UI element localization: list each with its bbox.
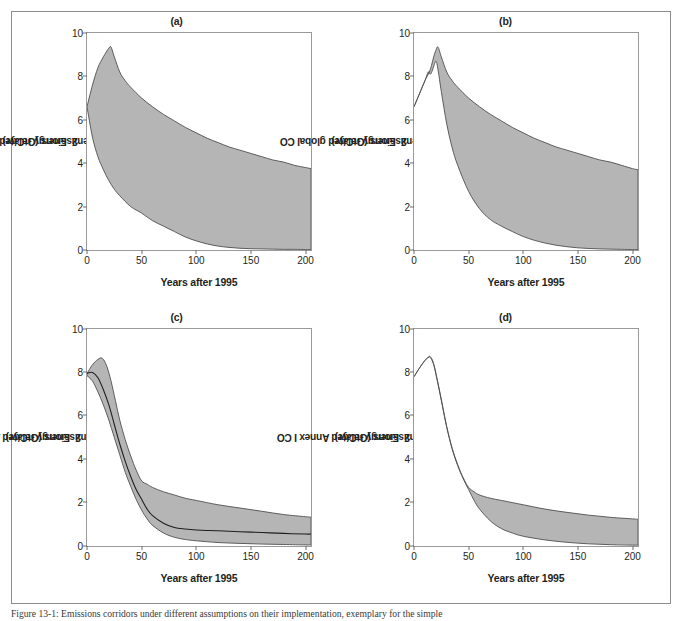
panel-c-xtick-0: 0 (84, 551, 90, 562)
panel-b: (b) Energy related global CO2 emissions … (341, 12, 670, 308)
panel-c-xtickmark-100 (196, 546, 197, 550)
panel-a-plot-svg (87, 33, 311, 250)
panel-d-ytickmark-8 (410, 371, 414, 372)
panel-d-plot-svg (414, 329, 638, 546)
panel-c-ytickmark-2 (83, 502, 87, 503)
panel-b-xtick-150: 150 (570, 255, 587, 266)
panel-c-x-axis-label: Years after 1995 (86, 572, 312, 584)
panel-d: (d) Energy related Annex I CO2 emissions… (341, 308, 670, 604)
panel-b-ytickmark-8 (410, 76, 414, 77)
panel-b-xtickmark-0 (414, 250, 415, 254)
panel-a: (a) Energy related global CO2 emissions … (12, 12, 341, 308)
panel-a-y-axis-label-text: Energy related global CO2 emissions (GtC… (4, 84, 37, 200)
panel-a-ytickmark-8 (83, 76, 87, 77)
panel-b-plot-svg (414, 33, 638, 250)
panel-c-ytickmark-4 (83, 458, 87, 459)
panel-a-ytickmark-6 (83, 119, 87, 120)
panel-d-xtick-50: 50 (463, 551, 474, 562)
panel-b-xtickmark-150 (577, 250, 578, 254)
panel-b-ytickmark-4 (410, 163, 414, 164)
panel-d-ytickmark-6 (410, 415, 414, 416)
panel-b-y-axis-label: Energy related global CO2 emissions (GtC… (339, 32, 359, 251)
panel-d-xtickmark-0 (414, 546, 415, 550)
panel-d-xtick-150: 150 (570, 551, 587, 562)
panel-b-x-axis-label: Years after 1995 (413, 276, 639, 288)
panel-b-ytickmark-6 (410, 119, 414, 120)
panel-grid: (a) Energy related global CO2 emissions … (12, 12, 670, 603)
panel-c-title: (c) (12, 311, 341, 323)
panel-c-y-axis-label-text: Energy related Annex I CO2 emissions (Gt… (4, 376, 37, 498)
panel-d-plot-area: 0246810050100150200 (413, 328, 639, 547)
panel-c-ytick-10: 10 (72, 323, 83, 334)
panel-c-xtickmark-0 (87, 546, 88, 550)
panel-d-ytickmark-2 (410, 502, 414, 503)
panel-b-xtickmark-50 (468, 250, 469, 254)
panel-b-ytickmark-10 (410, 33, 414, 34)
panel-c-xtickmark-50 (141, 546, 142, 550)
panel-a-xtickmark-0 (87, 250, 88, 254)
panel-a-xtickmark-200 (305, 250, 306, 254)
panel-b-title: (b) (341, 15, 670, 27)
panel-c-xtickmark-150 (250, 546, 251, 550)
panel-d-y-axis-label: Energy related Annex I CO2 emissions (Gt… (339, 328, 359, 547)
panel-a-ytickmark-10 (83, 33, 87, 34)
panel-b-xtick-0: 0 (411, 255, 417, 266)
panel-a-y-axis-label: Energy related global CO2 emissions (GtC… (10, 32, 30, 251)
panel-d-xtick-100: 100 (515, 551, 532, 562)
panel-a-ytickmark-4 (83, 163, 87, 164)
panel-a-xtick-100: 100 (188, 255, 205, 266)
panel-d-xtickmark-150 (577, 546, 578, 550)
panel-b-xtickmark-200 (632, 250, 633, 254)
panel-a-ytick-10: 10 (72, 28, 83, 39)
panel-c-xtick-50: 50 (136, 551, 147, 562)
panel-b-xtick-100: 100 (515, 255, 532, 266)
panel-b-ytick-10: 10 (399, 28, 410, 39)
panel-a-ytickmark-2 (83, 206, 87, 207)
panel-c-ytickmark-10 (83, 328, 87, 329)
panel-c: (c) Energy related Annex I CO2 emissions… (12, 308, 341, 604)
panel-c-xtick-150: 150 (243, 551, 260, 562)
panel-a-xtick-0: 0 (84, 255, 90, 266)
panel-a-plot-area: 0246810050100150200 (86, 32, 312, 251)
panel-a-xtick-150: 150 (243, 255, 260, 266)
panel-a-xtickmark-100 (196, 250, 197, 254)
panel-c-xtick-100: 100 (188, 551, 205, 562)
panel-d-y-axis-label-text: Energy related Annex I CO2 emissions (Gt… (333, 376, 366, 498)
panel-d-x-axis-label: Years after 1995 (413, 572, 639, 584)
panel-d-xtick-0: 0 (411, 551, 417, 562)
panel-a-xtickmark-50 (141, 250, 142, 254)
panel-c-y-axis-label: Energy related Annex I CO2 emissions (Gt… (10, 328, 30, 547)
panel-b-plot-area: 0246810050100150200 (413, 32, 639, 251)
panel-a-x-axis-label: Years after 1995 (86, 276, 312, 288)
panel-a-title: (a) (12, 15, 341, 27)
panel-c-xtick-200: 200 (297, 551, 314, 562)
panel-a-xtick-200: 200 (297, 255, 314, 266)
panel-b-ytickmark-2 (410, 206, 414, 207)
panel-b-xtick-50: 50 (463, 255, 474, 266)
panel-a-xtickmark-150 (250, 250, 251, 254)
figure-caption: Figure 13-1: Emissions corridors under d… (11, 608, 673, 620)
panel-c-xtickmark-200 (305, 546, 306, 550)
panel-c-ytickmark-6 (83, 415, 87, 416)
figure-frame: (a) Energy related global CO2 emissions … (11, 11, 671, 604)
panel-b-y-axis-label-text: Energy related global CO2 emissions (GtC… (333, 84, 366, 200)
panel-d-ytickmark-4 (410, 458, 414, 459)
panel-d-xtick-200: 200 (624, 551, 641, 562)
panel-d-xtickmark-200 (632, 546, 633, 550)
panel-d-ytickmark-10 (410, 328, 414, 329)
panel-c-ytickmark-8 (83, 371, 87, 372)
panel-b-xtick-200: 200 (624, 255, 641, 266)
panel-b-xtickmark-100 (523, 250, 524, 254)
panel-d-xtickmark-50 (468, 546, 469, 550)
panel-a-xtick-50: 50 (136, 255, 147, 266)
panel-d-xtickmark-100 (523, 546, 524, 550)
panel-d-ytick-10: 10 (399, 323, 410, 334)
panel-d-title: (d) (341, 311, 670, 323)
